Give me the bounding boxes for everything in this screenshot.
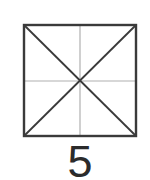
figure-label: 5	[0, 139, 150, 180]
